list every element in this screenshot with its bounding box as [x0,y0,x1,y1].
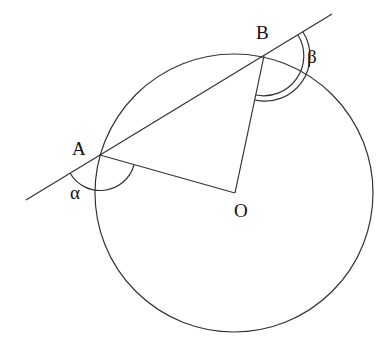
label-a: A [72,138,86,159]
geometry-diagram: A B O α β [0,0,390,348]
label-beta: β [307,46,317,67]
label-alpha: α [70,182,80,203]
angle-beta-arc-inner [256,35,304,96]
radius-ob [235,56,264,193]
label-o: O [234,200,248,221]
radius-oa [100,155,235,193]
secant-line [26,14,332,200]
label-b: B [256,22,269,43]
